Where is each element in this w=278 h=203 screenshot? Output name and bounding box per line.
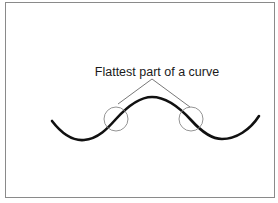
annotation-label: Flattest part of a curve — [95, 65, 219, 79]
diagram-canvas: Flattest part of a curve — [0, 0, 278, 203]
leader-line-left — [118, 79, 152, 104]
sine-curve — [52, 97, 259, 140]
leader-lines — [118, 79, 190, 107]
